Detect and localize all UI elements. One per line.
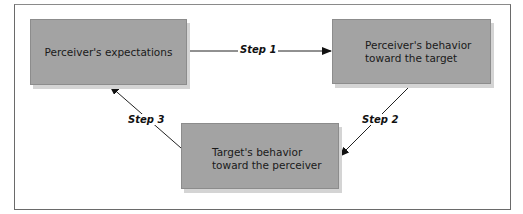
- node-label: Perceiver's behavior toward the target: [365, 39, 485, 65]
- step2-label: Step 2: [360, 114, 400, 125]
- step3-label: Step 3: [126, 114, 166, 125]
- node-perceivers-expectations: Perceiver's expectations: [30, 19, 187, 85]
- node-targets-behavior: Target's behavior toward the perceiver: [181, 123, 339, 189]
- node-label: Target's behavior toward the perceiver: [212, 146, 332, 172]
- node-perceivers-behavior: Perceiver's behavior toward the target: [332, 19, 491, 84]
- node-label: Perceiver's expectations: [45, 46, 173, 59]
- step1-label: Step 1: [238, 44, 278, 55]
